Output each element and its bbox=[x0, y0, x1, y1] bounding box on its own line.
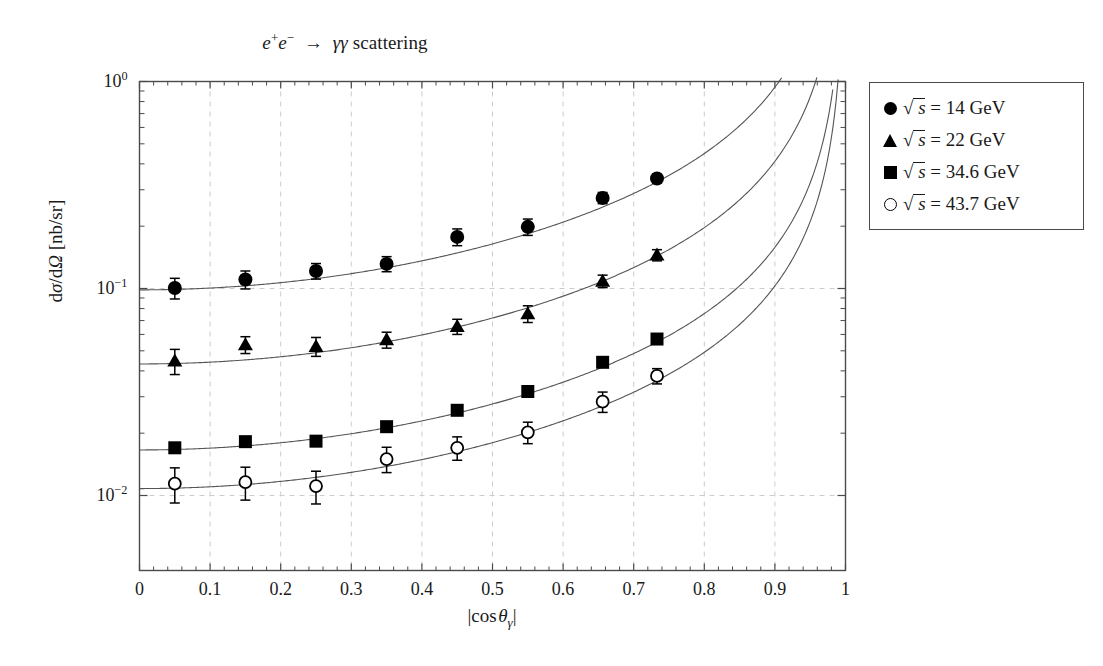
legend: √ s = 14 GeV √ s = 22 GeV √ s = 34.6 GeV… bbox=[869, 82, 1084, 230]
y-tick-label: 100 bbox=[58, 69, 128, 92]
data-markers bbox=[167, 171, 664, 492]
x-tick-label: 0.4 bbox=[392, 579, 452, 600]
legend-entry-label: √ s = 43.7 GeV bbox=[903, 193, 1020, 215]
x-tick-label: 0.3 bbox=[321, 579, 381, 600]
legend-entry-label: √ s = 22 GeV bbox=[903, 129, 1005, 151]
filled-square-icon bbox=[879, 166, 901, 179]
legend-entry[interactable]: √ s = 34.6 GeV bbox=[879, 156, 1073, 188]
x-tick-label: 1 bbox=[816, 579, 876, 600]
filled-triangle-icon bbox=[879, 134, 901, 147]
y-tick-label: 10−2 bbox=[58, 483, 128, 506]
filled-circle-icon bbox=[879, 102, 901, 115]
x-tick-label: 0.5 bbox=[463, 579, 523, 600]
open-circle-icon bbox=[879, 198, 901, 211]
x-tick-label: 0.6 bbox=[533, 579, 593, 600]
legend-entry-label: √ s = 14 GeV bbox=[903, 97, 1005, 119]
x-tick-label: 0.9 bbox=[745, 579, 805, 600]
x-tick-label: 0.2 bbox=[251, 579, 311, 600]
chart-figure: e+e− → γγ scattering dσ/dΩ [nb/sr] |cos … bbox=[0, 0, 1103, 666]
x-tick-label: 0.1 bbox=[180, 579, 240, 600]
error-bars bbox=[170, 174, 662, 504]
legend-entry-label: √ s = 34.6 GeV bbox=[903, 161, 1020, 183]
legend-entry[interactable]: √ s = 14 GeV bbox=[879, 92, 1073, 124]
x-tick-label: 0 bbox=[110, 579, 170, 600]
legend-entry[interactable]: √ s = 43.7 GeV bbox=[879, 188, 1073, 220]
legend-entry[interactable]: √ s = 22 GeV bbox=[879, 124, 1073, 156]
x-tick-label: 0.7 bbox=[604, 579, 664, 600]
x-tick-label: 0.8 bbox=[674, 579, 734, 600]
y-tick-label: 10−1 bbox=[58, 276, 128, 299]
